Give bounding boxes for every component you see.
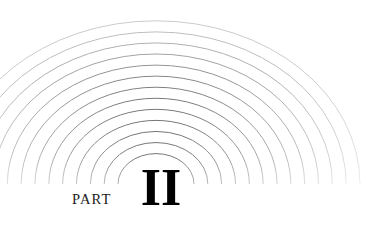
part-label-layer: PART II [0,0,376,228]
part-divider-page: PART II [0,0,376,228]
part-numeral-label: II [137,162,185,214]
part-word-label: PART [72,192,112,207]
